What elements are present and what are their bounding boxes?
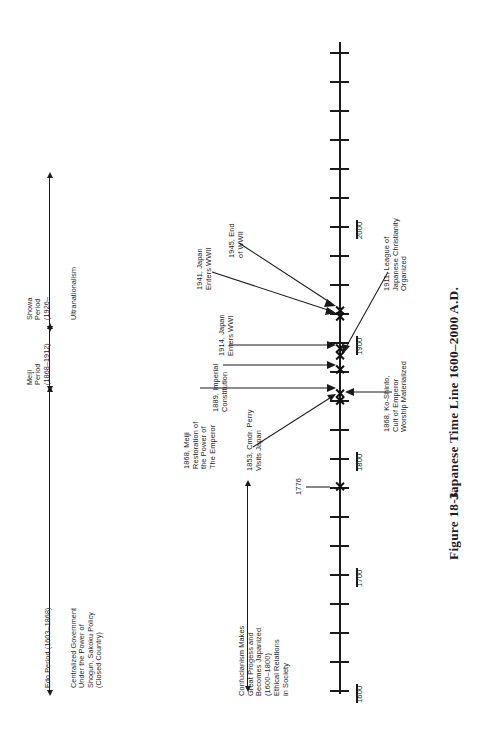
- event-label-1911: 1911, League of Japanese Christianity Or…: [383, 218, 409, 291]
- edo-period-description: Centralized Government Under the Power o…: [70, 608, 104, 688]
- leader-1914-arrowhead: [327, 341, 336, 349]
- figure-caption-title: Japanese Time Line 1600–2000 A.D.: [446, 287, 462, 500]
- edo-period-label: Edo Period (1603–1868): [44, 607, 52, 688]
- leader-1889-arrowhead: [327, 361, 336, 369]
- leader-1868-koshinto-arrowhead: [345, 388, 354, 396]
- arrowhead-down-icon: [47, 326, 53, 332]
- event-label-1945: 1945, End of WWII: [228, 223, 245, 258]
- event-label-1941: 1941, Japan Enters WWII: [196, 247, 213, 290]
- event-label-1868-meiji: 1868, Meiji Restoration of the Power of …: [183, 422, 218, 469]
- event-label-1914: 1914, Japan Enters WWI: [218, 314, 235, 356]
- event-label-1868-koshinto: 1868, Ko-Shinto, Cult of Emperor Worship…: [383, 361, 409, 432]
- leader-1868-meiji-arrowhead: [327, 384, 336, 392]
- ultranationalism-label: Ultranationalism: [70, 267, 78, 320]
- arrowhead-up-icon: [47, 172, 53, 178]
- event-label-1853: 1853, Cmdr. Perry Visits Japan: [246, 409, 263, 471]
- meiji-period-label: Meiji Period (1868–1912): [26, 343, 51, 385]
- leader-1853: [253, 396, 333, 447]
- arrowhead-up-icon: [245, 480, 251, 486]
- leader-1945: [239, 243, 331, 303]
- event-label-1776: 1776: [295, 478, 304, 495]
- leader-1853-arrowhead: [327, 394, 336, 401]
- arrowhead-down-icon: [47, 386, 53, 392]
- confucianism-trend-label: Confucianism Makes Great Progess and Bec…: [238, 626, 290, 696]
- leader-1911-arrowhead: [342, 344, 350, 354]
- event-label-1889: 1889, Imperial Constitution: [212, 364, 229, 412]
- arrowhead-down-icon: [47, 690, 53, 696]
- showa-period-label: Showa Period (1926–: [26, 297, 51, 320]
- leader-1941-arrowhead: [325, 307, 336, 315]
